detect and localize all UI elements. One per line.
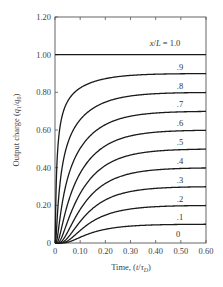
curve-label: .6 xyxy=(177,118,183,128)
curve-label: .2 xyxy=(177,194,183,204)
x-tick-label: 0.20 xyxy=(98,246,113,256)
y-tick-label: 0.60 xyxy=(36,125,51,135)
x-tick-label: 0.60 xyxy=(199,246,214,256)
curve-x-over-l-0-5 xyxy=(55,149,206,243)
curve-x-over-l-0-3 xyxy=(55,187,206,243)
curve-label: .5 xyxy=(177,137,183,147)
curve-label: .9 xyxy=(177,62,183,72)
y-tick-label: 0.40 xyxy=(36,163,51,173)
curve-label: .1 xyxy=(177,212,183,222)
curve-label: .3 xyxy=(177,175,183,185)
x-tick-label: 0.40 xyxy=(148,246,163,256)
y-tick-label: 1.00 xyxy=(36,50,51,60)
x-tick-label: 0.10 xyxy=(73,246,88,256)
x-axis-ticks: 00.100.200.300.400.500.60 xyxy=(53,17,214,256)
curve-label: x/L = 1.0 xyxy=(149,38,181,48)
x-tick-label: 0.30 xyxy=(123,246,138,256)
curves xyxy=(55,55,206,243)
y-axis-title: Output charge (q1/q0) xyxy=(11,93,22,166)
curve-label: .8 xyxy=(177,81,183,91)
x-tick-label: 0.50 xyxy=(173,246,188,256)
x-axis-title: Time, (t/τD) xyxy=(111,262,151,273)
output-charge-chart: 00.200.400.600.801.001.20 00.100.200.300… xyxy=(0,0,223,287)
y-tick-label: 1.20 xyxy=(36,12,51,22)
curve-x-over-l-0-9 xyxy=(55,74,206,243)
curve-label: .4 xyxy=(177,156,184,166)
x-tick-label: 0 xyxy=(53,246,57,256)
curve-label: 0 xyxy=(176,229,180,239)
curve-labels: x/L = 1.0.9.8.7.6.5.4.3.2.10 xyxy=(149,38,184,239)
y-tick-label: 0.20 xyxy=(36,200,51,210)
y-tick-label: 0 xyxy=(47,238,51,248)
y-tick-label: 0.80 xyxy=(36,87,51,97)
curve-label: .7 xyxy=(177,99,183,109)
